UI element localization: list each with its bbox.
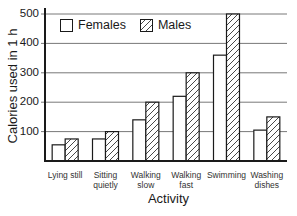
- legend: Females Males: [60, 18, 205, 32]
- x-category-label: Sittingquietly: [83, 170, 129, 190]
- bar-males: [65, 139, 78, 161]
- x-category-label: Walkingslow: [123, 170, 169, 190]
- y-tick-label: 300: [13, 66, 39, 78]
- bar-males: [227, 14, 240, 161]
- females-swatch-icon: [60, 19, 73, 32]
- bar-males: [146, 102, 159, 161]
- x-category-label: Lying still: [42, 170, 88, 180]
- bar-females: [133, 120, 146, 161]
- males-hatched-swatch-icon: [140, 19, 153, 32]
- x-axis-label: Activity: [0, 191, 297, 206]
- legend-item-females: Females: [60, 18, 126, 32]
- y-tick-label: 500: [13, 7, 39, 19]
- bars: [52, 14, 280, 161]
- bar-females: [173, 96, 186, 161]
- y-tick-label: 400: [13, 36, 39, 48]
- legend-item-males: Males: [140, 18, 191, 32]
- y-tick-label: 100: [13, 125, 39, 137]
- bar-males: [267, 117, 280, 161]
- legend-label-females: Females: [78, 18, 126, 32]
- x-category-label: Washingdishes: [244, 170, 290, 190]
- bar-males: [186, 73, 199, 161]
- x-category-label: Walkingfast: [163, 170, 209, 190]
- bar-females: [93, 139, 106, 161]
- bar-females: [52, 145, 65, 161]
- bar-females: [214, 55, 227, 161]
- bar-males: [106, 132, 119, 161]
- legend-label-males: Males: [158, 18, 191, 32]
- bar-females: [254, 130, 267, 161]
- y-tick-label: 200: [13, 95, 39, 107]
- x-category-label: Swimming: [204, 170, 250, 180]
